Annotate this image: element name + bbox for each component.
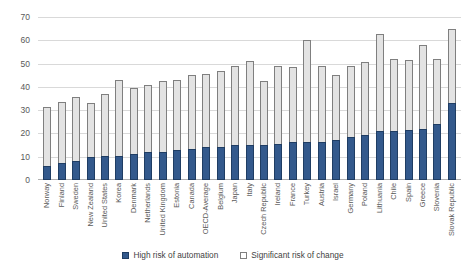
bar-column[interactable] — [332, 75, 340, 180]
bar-column[interactable] — [289, 67, 297, 180]
bar-column[interactable] — [448, 29, 456, 180]
bar-column[interactable] — [159, 81, 167, 180]
bar-column[interactable] — [303, 40, 311, 180]
bar-column[interactable] — [58, 102, 66, 180]
bar-segment-high-risk-of-automation[interactable] — [159, 152, 167, 180]
bar-segment-high-risk-of-automation[interactable] — [130, 154, 138, 180]
bar-column[interactable] — [274, 66, 282, 180]
bar-segment-significant-risk-of-change[interactable] — [289, 67, 297, 142]
bar-column[interactable] — [318, 66, 326, 180]
bar-segment-significant-risk-of-change[interactable] — [318, 66, 326, 142]
bar-segment-significant-risk-of-change[interactable] — [303, 40, 311, 141]
bar-slot — [387, 17, 401, 180]
bar-segment-significant-risk-of-change[interactable] — [188, 75, 196, 148]
bar-segment-high-risk-of-automation[interactable] — [405, 130, 413, 180]
bar-segment-significant-risk-of-change[interactable] — [202, 74, 210, 147]
bar-segment-high-risk-of-automation[interactable] — [173, 150, 181, 180]
bar-segment-high-risk-of-automation[interactable] — [289, 142, 297, 180]
bar-column[interactable] — [419, 45, 427, 180]
bar-column[interactable] — [260, 81, 268, 180]
bar-segment-high-risk-of-automation[interactable] — [361, 135, 369, 180]
bar-column[interactable] — [115, 80, 123, 180]
bar-column[interactable] — [101, 94, 109, 180]
x-axis-label-turkey: Turkey — [304, 183, 311, 205]
bar-segment-significant-risk-of-change[interactable] — [274, 66, 282, 144]
bar-segment-significant-risk-of-change[interactable] — [217, 71, 225, 148]
bar-column[interactable] — [217, 71, 225, 180]
bar-segment-high-risk-of-automation[interactable] — [260, 145, 268, 180]
bar-segment-high-risk-of-automation[interactable] — [188, 149, 196, 180]
bar-segment-high-risk-of-automation[interactable] — [202, 147, 210, 180]
bar-segment-significant-risk-of-change[interactable] — [144, 85, 152, 153]
x-label-slot: United States — [98, 182, 112, 244]
bar-segment-high-risk-of-automation[interactable] — [390, 131, 398, 180]
bar-segment-high-risk-of-automation[interactable] — [101, 156, 109, 180]
bar-column[interactable] — [188, 75, 196, 180]
bar-segment-significant-risk-of-change[interactable] — [260, 81, 268, 145]
bar-slot — [213, 17, 227, 180]
bar-segment-high-risk-of-automation[interactable] — [448, 103, 456, 180]
bar-column[interactable] — [390, 59, 398, 180]
legend-swatch-blue-icon — [122, 252, 129, 259]
bar-column[interactable] — [144, 85, 152, 180]
bar-column[interactable] — [231, 66, 239, 180]
bar-segment-high-risk-of-automation[interactable] — [347, 137, 355, 180]
bar-segment-high-risk-of-automation[interactable] — [43, 166, 51, 180]
bar-segment-high-risk-of-automation[interactable] — [58, 163, 66, 180]
x-axis-label-germany: Germany — [347, 183, 354, 213]
bar-segment-significant-risk-of-change[interactable] — [72, 97, 80, 161]
x-axis-label-austria: Austria — [318, 183, 325, 206]
bar-segment-significant-risk-of-change[interactable] — [58, 102, 66, 163]
x-axis-label-poland: Poland — [361, 183, 368, 206]
bar-column[interactable] — [433, 59, 441, 180]
bar-segment-significant-risk-of-change[interactable] — [101, 94, 109, 156]
bar-segment-high-risk-of-automation[interactable] — [72, 161, 80, 180]
bar-segment-high-risk-of-automation[interactable] — [231, 145, 239, 180]
legend-item[interactable]: High risk of automation — [122, 251, 218, 259]
bar-segment-high-risk-of-automation[interactable] — [419, 129, 427, 180]
bar-segment-significant-risk-of-change[interactable] — [448, 29, 456, 104]
bar-column[interactable] — [43, 107, 51, 180]
bar-segment-significant-risk-of-change[interactable] — [115, 80, 123, 156]
bar-column[interactable] — [361, 62, 369, 180]
bar-column[interactable] — [173, 80, 181, 180]
bar-column[interactable] — [130, 88, 138, 180]
bar-segment-significant-risk-of-change[interactable] — [361, 62, 369, 134]
bar-segment-significant-risk-of-change[interactable] — [246, 61, 254, 145]
bar-segment-significant-risk-of-change[interactable] — [347, 66, 355, 137]
bar-segment-significant-risk-of-change[interactable] — [159, 81, 167, 152]
bar-segment-significant-risk-of-change[interactable] — [433, 59, 441, 124]
bar-segment-high-risk-of-automation[interactable] — [318, 142, 326, 180]
bar-segment-significant-risk-of-change[interactable] — [390, 59, 398, 131]
legend-item[interactable]: Significant risk of change — [240, 251, 343, 259]
bar-column[interactable] — [405, 60, 413, 180]
bar-slot — [344, 17, 358, 180]
bar-segment-significant-risk-of-change[interactable] — [173, 80, 181, 150]
x-label-slot: Greece — [416, 182, 430, 244]
bar-column[interactable] — [347, 66, 355, 180]
bar-segment-significant-risk-of-change[interactable] — [130, 88, 138, 154]
bar-segment-high-risk-of-automation[interactable] — [115, 156, 123, 180]
bar-segment-high-risk-of-automation[interactable] — [303, 142, 311, 180]
bar-segment-high-risk-of-automation[interactable] — [87, 157, 95, 180]
bar-segment-significant-risk-of-change[interactable] — [332, 75, 340, 140]
bar-column[interactable] — [72, 97, 80, 180]
bar-segment-significant-risk-of-change[interactable] — [87, 103, 95, 157]
x-label-slot: Italy — [242, 182, 256, 244]
bar-segment-high-risk-of-automation[interactable] — [144, 152, 152, 180]
bar-segment-significant-risk-of-change[interactable] — [405, 60, 413, 130]
bar-segment-significant-risk-of-change[interactable] — [231, 66, 239, 145]
bar-segment-high-risk-of-automation[interactable] — [217, 147, 225, 180]
bar-column[interactable] — [87, 103, 95, 180]
bar-segment-significant-risk-of-change[interactable] — [376, 34, 384, 131]
bar-segment-significant-risk-of-change[interactable] — [43, 107, 51, 166]
bar-segment-high-risk-of-automation[interactable] — [376, 131, 384, 180]
bar-segment-high-risk-of-automation[interactable] — [274, 144, 282, 180]
bar-segment-high-risk-of-automation[interactable] — [433, 124, 441, 180]
bar-segment-high-risk-of-automation[interactable] — [332, 140, 340, 180]
bar-column[interactable] — [376, 34, 384, 180]
bar-column[interactable] — [246, 61, 254, 180]
bar-segment-significant-risk-of-change[interactable] — [419, 45, 427, 129]
bar-column[interactable] — [202, 74, 210, 180]
bar-segment-high-risk-of-automation[interactable] — [246, 145, 254, 180]
